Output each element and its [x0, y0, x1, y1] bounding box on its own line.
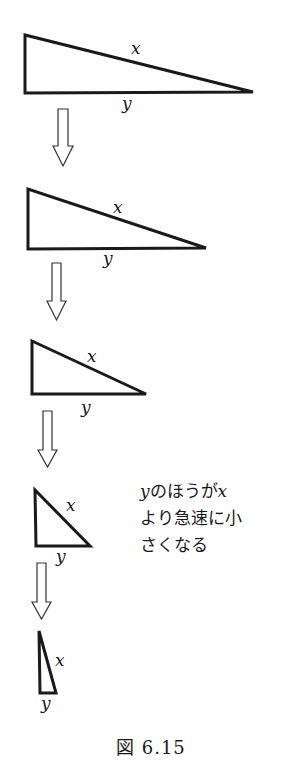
annotation-line-2: より急速に小 — [140, 505, 242, 532]
annotation-var-x: x — [218, 481, 228, 501]
down-arrow-icon — [53, 109, 73, 166]
triangle-5 — [39, 631, 56, 693]
figure-caption: 図 6.15 — [116, 733, 186, 759]
annotation-line-3: さくなる — [140, 532, 242, 559]
hypotenuse-label-x: x — [113, 199, 123, 216]
base-label-y: y — [41, 695, 51, 712]
base-label-y: y — [81, 399, 91, 416]
base-label-y: y — [56, 548, 66, 565]
down-arrow-icon — [32, 563, 51, 619]
down-arrow-icon — [47, 263, 66, 320]
hypotenuse-label-x: x — [131, 40, 141, 57]
annotation-text-part: のほうが — [150, 481, 218, 501]
base-label-y: y — [103, 250, 113, 267]
hypotenuse-label-x: x — [87, 348, 97, 365]
figure-6-15: x y x y x y x y x y yのほうがx より急速に小 さくなる 図… — [0, 0, 281, 782]
annotation-var-y: y — [140, 481, 150, 501]
base-label-y: y — [122, 95, 132, 112]
hypotenuse-label-x: x — [66, 497, 76, 514]
triangle-4 — [35, 490, 90, 546]
hypotenuse-label-x: x — [55, 652, 65, 669]
annotation-line-1: yのほうがx — [140, 478, 242, 505]
down-arrow-icon — [38, 411, 57, 467]
annotation-text: yのほうがx より急速に小 さくなる — [140, 478, 242, 559]
